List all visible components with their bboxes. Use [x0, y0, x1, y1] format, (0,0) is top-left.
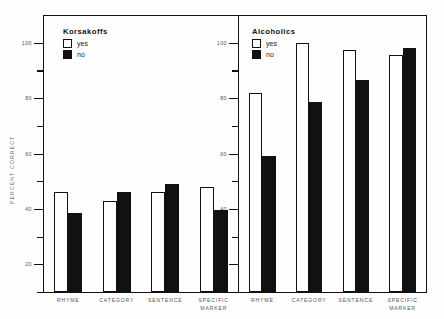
plot-area-alcoholics: [239, 15, 426, 292]
bar-yes: [343, 50, 356, 292]
bar-yes: [54, 192, 68, 292]
y-axis-korsakoffs: 10080604020: [9, 15, 43, 293]
bar-no: [165, 184, 179, 292]
x-tick-label: RHYME: [239, 297, 286, 305]
bar-group: [190, 15, 239, 292]
bar-chart-figure: PERCENT CORRECT 10080604020 10080604020 …: [0, 0, 444, 319]
bar-group: [333, 15, 380, 292]
bar-no: [214, 210, 228, 292]
plot-area-korsakoffs: [44, 15, 238, 292]
y-tick-label-80: 80: [25, 95, 32, 101]
y-tick-20: [34, 264, 43, 265]
bar-no: [356, 80, 369, 292]
y-tick-label-20: 20: [25, 261, 32, 267]
y-tick-label-40: 40: [25, 206, 32, 212]
bar-yes: [389, 55, 402, 292]
bar-group: [93, 15, 142, 292]
x-tick-label: SPECIFIC MARKER: [379, 297, 426, 312]
y-tick-10: [37, 292, 43, 293]
x-tick-label: SPECIFIC MARKER: [190, 297, 239, 312]
y-tick-60: [34, 154, 43, 155]
bar-no: [403, 48, 416, 292]
bar-group: [44, 15, 93, 292]
y-tick-100: [34, 43, 43, 44]
y-tick-70: [37, 126, 43, 127]
y-tick-80: [34, 98, 43, 99]
y-tick-label-100: 100: [22, 40, 32, 46]
x-axis-labels-alcoholics: RHYMECATEGORYSENTENCESPECIFIC MARKER: [239, 297, 426, 317]
bar-group: [239, 15, 286, 292]
y-tick-label-60: 60: [25, 151, 32, 157]
x-tick-label: SENTENCE: [333, 297, 380, 305]
bar-yes: [249, 93, 262, 292]
bar-group: [379, 15, 426, 292]
y-tick-10: [232, 292, 238, 293]
y-tick-30: [37, 237, 43, 238]
bar-group: [141, 15, 190, 292]
y-tick-40: [34, 209, 43, 210]
bar-no: [262, 156, 275, 292]
x-axis-labels-korsakoffs: RHYMECATEGORYSENTENCESPECIFIC MARKER: [44, 297, 238, 317]
bar-group: [286, 15, 333, 292]
bar-yes: [103, 201, 117, 292]
x-tick-label: SENTENCE: [141, 297, 190, 305]
bar-no: [117, 192, 131, 292]
bar-yes: [200, 187, 214, 292]
bar-no: [68, 213, 82, 292]
bar-yes: [296, 43, 309, 292]
x-tick-label: RHYME: [44, 297, 93, 305]
bar-yes: [151, 192, 165, 292]
x-tick-label: CATEGORY: [93, 297, 142, 305]
bar-no: [309, 102, 322, 292]
y-tick-50: [37, 181, 43, 182]
x-tick-label: CATEGORY: [286, 297, 333, 305]
y-tick-90: [37, 70, 43, 71]
